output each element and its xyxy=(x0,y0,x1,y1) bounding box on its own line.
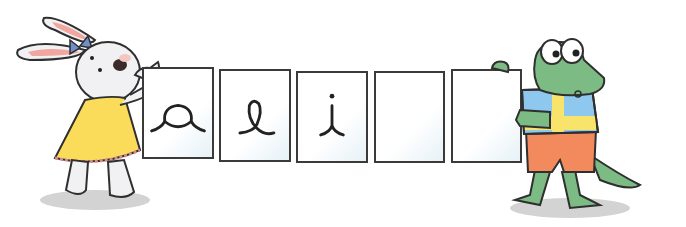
letter-card-i: i xyxy=(296,71,368,163)
blank-card-1 xyxy=(374,71,445,163)
cursive-a-glyph xyxy=(144,69,212,157)
letter-card-e: e xyxy=(219,69,291,162)
crocodile-character xyxy=(480,20,686,227)
illustration-scene: a e i xyxy=(0,0,686,227)
cursive-e-glyph xyxy=(221,71,289,160)
cursive-i-glyph xyxy=(298,73,366,161)
letter-card-a: a xyxy=(142,67,214,159)
